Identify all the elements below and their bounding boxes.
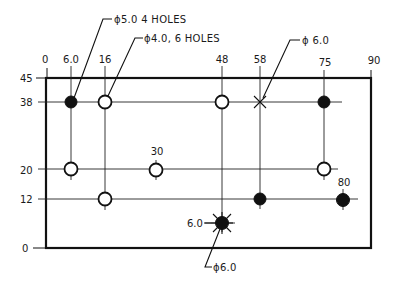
x-dim-48: 48: [216, 54, 229, 65]
x-dim-90: 90: [368, 55, 381, 66]
hole-filled-75-38: [318, 96, 330, 108]
hole-open-16-12: [99, 193, 112, 206]
y-dim-45: 45: [20, 73, 33, 84]
y-dim-12: 12: [20, 194, 33, 205]
callout-phi6-top-text: ϕ 6.0: [302, 35, 329, 46]
x-dim-6: 6.0: [63, 54, 79, 65]
x-dimension-labels: 0 6.0 16 48 58 75 90: [42, 54, 380, 68]
callout-phi5-4holes: ϕ5.0 4 HOLES: [74, 14, 186, 98]
label-x80: 80: [338, 177, 351, 188]
callout-phi4-text: ϕ4.0, 6 HOLES: [144, 33, 220, 44]
hole-open-16-38: [99, 96, 112, 109]
y-dimension-ticks: [33, 78, 46, 248]
callout-phi6-bottom-text: ϕ6.0: [213, 262, 237, 273]
hole-open-48-38: [216, 96, 229, 109]
label-y6: 6.0: [187, 218, 203, 229]
y-dim-0: 0: [22, 243, 28, 254]
label-x30: 30: [151, 146, 164, 157]
hole-filled-80-12: [337, 194, 350, 207]
hole-layout-drawing: 0 6.0 16 48 58 75 90 45 38 20 12 0: [0, 0, 396, 288]
hole-open-6-20: [65, 163, 78, 176]
callout-phi4-6holes: ϕ4.0, 6 HOLES: [108, 33, 220, 96]
x-dim-75: 75: [319, 57, 332, 68]
inline-labels: 30 80 6.0: [151, 146, 351, 229]
y-dimension-labels: 45 38 20 12 0: [20, 73, 33, 254]
y-dim-20: 20: [20, 165, 33, 176]
x-dimension-ticks: [47, 68, 371, 78]
hole-filled-6-38: [65, 96, 77, 108]
hole-star-48-6: [211, 212, 233, 234]
x-dim-58: 58: [254, 54, 267, 65]
hole-open-75-20: [318, 163, 331, 176]
x-dim-0: 0: [42, 54, 48, 65]
hole-open-30-20: [150, 164, 163, 177]
holes: [65, 96, 350, 235]
callout-phi5-text: ϕ5.0 4 HOLES: [114, 14, 186, 25]
x-dim-16: 16: [99, 54, 112, 65]
center-lines: [38, 66, 358, 232]
y-dim-38: 38: [20, 97, 33, 108]
callout-phi6-bottom: ϕ6.0: [205, 229, 237, 273]
hole-filled-58-12: [254, 193, 266, 205]
